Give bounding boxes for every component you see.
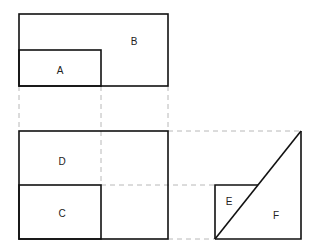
- label-c: C: [58, 208, 65, 219]
- projection-diagram: A B D C E F: [0, 0, 318, 251]
- label-d: D: [58, 156, 65, 167]
- label-a: A: [57, 65, 64, 76]
- side-view: E F: [215, 131, 301, 239]
- top-view: A B: [19, 14, 168, 86]
- label-b: B: [131, 36, 138, 47]
- label-f: F: [273, 210, 279, 221]
- label-e: E: [226, 196, 233, 207]
- front-view: D C: [19, 131, 168, 239]
